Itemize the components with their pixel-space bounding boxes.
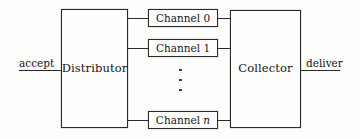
block-diagram-figure: accept Distributor Channel 0 Channel 1 C… [0, 0, 360, 139]
channel-0-prefix: Channel [156, 12, 200, 24]
distributor-to-channel-1-wire [128, 48, 149, 49]
deliver-label: deliver [306, 58, 343, 69]
channel-1-block: Channel 1 [148, 39, 218, 57]
ellipsis-dot [179, 69, 181, 71]
channel-0-label: Channel 0 [156, 13, 210, 24]
channel-n-index: n [203, 114, 210, 126]
channel-0-block: Channel 0 [148, 9, 218, 27]
channel-1-label: Channel 1 [156, 43, 210, 54]
distributor-block: Distributor [61, 9, 128, 128]
channel-n-label: Channel n [156, 115, 210, 126]
channel-n-block: Channel n [148, 111, 218, 129]
channel-1-to-collector-wire [217, 48, 231, 49]
ellipsis-dot [179, 89, 181, 91]
vertical-ellipsis-icon [179, 69, 182, 91]
channel-1-prefix: Channel [156, 42, 200, 54]
channel-0-index: 0 [203, 12, 210, 24]
distributor-label: Distributor [62, 63, 128, 75]
channel-n-to-collector-wire [217, 120, 231, 121]
collector-block: Collector [230, 10, 301, 128]
distributor-to-channel-0-wire [128, 18, 149, 19]
channel-0-to-collector-wire [217, 18, 231, 19]
accept-label: accept [19, 58, 54, 69]
accept-wire [19, 70, 62, 71]
ellipsis-dot [179, 79, 181, 81]
distributor-to-channel-n-wire [128, 120, 149, 121]
collector-label: Collector [238, 63, 292, 75]
channel-n-prefix: Channel [156, 114, 200, 126]
channel-1-index: 1 [203, 42, 210, 54]
deliver-wire [300, 70, 340, 71]
